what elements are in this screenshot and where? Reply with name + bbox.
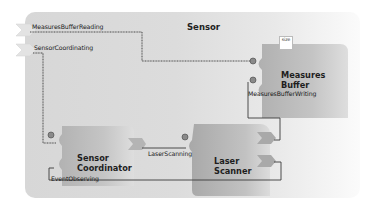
diagram-canvas bbox=[0, 0, 368, 218]
port-label-event-observing: EventObserving bbox=[51, 175, 99, 182]
port-label-measures-buffer-reading: MeasuresBufferReading bbox=[32, 23, 103, 30]
component-name-sensor-coordinator: Sensor Coordinator bbox=[77, 153, 132, 173]
component-name-measures-buffer: Measures Buffer bbox=[281, 70, 325, 90]
component-name-laser-scanner: Laser Scanner bbox=[214, 156, 252, 176]
port-label-sensor-coordinating: SensorCoordinating bbox=[34, 44, 93, 51]
port-label-laser-scanning: LaserScanning bbox=[148, 150, 192, 157]
attribute-size[interactable]: size bbox=[279, 36, 293, 50]
port-label-measures-buffer-writing: MeasuresBufferWriting bbox=[248, 90, 316, 97]
port-sensor-coordinating-icon[interactable] bbox=[16, 44, 36, 56]
